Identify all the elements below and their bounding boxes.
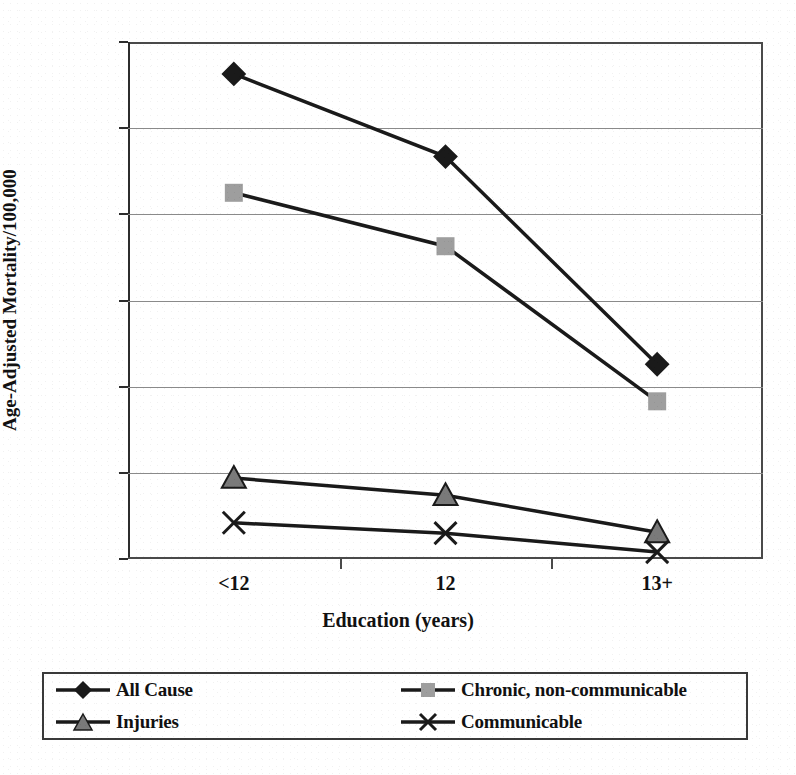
figure-title-partial [0,0,796,3]
data-point-triangle [222,466,246,488]
series-line [234,193,657,402]
series-line [234,74,657,364]
x-axis-tick [551,559,553,569]
legend-item[interactable]: Chronic, non-communicable [389,679,746,701]
legend-marker-square [399,679,457,701]
x-axis-tick-label: <12 [174,572,294,595]
y-axis-tick [119,41,128,43]
data-point-square [225,184,243,202]
legend-item[interactable]: All Cause [44,679,389,701]
y-axis-tick [119,558,128,560]
x-axis-tick-label: 12 [386,572,506,595]
legend-marker-x [399,711,457,733]
legend-marker-diamond [54,679,112,701]
legend-item[interactable]: Injuries [44,711,389,733]
legend-label: Injuries [116,711,179,733]
y-axis-tick [119,300,128,302]
data-point-square [648,392,666,410]
data-point-diamond [223,63,245,85]
y-axis-title: Age-Adjusted Mortality/100,000 [0,169,21,431]
legend: All CauseChronic, non-communicableInjuri… [42,672,748,740]
y-axis-tick [119,127,128,129]
x-axis-tick [340,559,342,569]
y-axis-tick [119,472,128,474]
plot-area [128,42,763,559]
x-axis-title: Education (years) [0,609,796,632]
legend-label: Communicable [461,711,582,733]
y-axis-tick [119,213,128,215]
chart-figure: Age-Adjusted Mortality/100,000 010020030… [0,0,796,775]
series-plot [128,42,763,559]
legend-item[interactable]: Communicable [389,711,746,733]
data-point-square [437,237,455,255]
legend-label: Chronic, non-communicable [461,679,687,701]
y-axis-tick [119,386,128,388]
legend-marker-triangle [54,711,112,733]
legend-label: All Cause [116,679,193,701]
series-line [234,523,657,552]
x-axis-tick-label: 13+ [597,572,717,595]
